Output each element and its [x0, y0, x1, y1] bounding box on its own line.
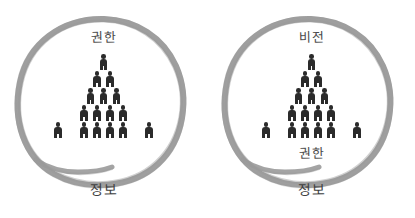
left-panel: 권한	[0, 0, 207, 218]
person-icon	[99, 54, 108, 70]
right-pyramid	[208, 52, 415, 144]
person-icon	[112, 88, 121, 104]
person-icon	[80, 122, 89, 138]
person-icon	[119, 122, 128, 138]
person-icon	[314, 105, 323, 121]
person-icon	[307, 88, 316, 104]
person-icon	[327, 105, 336, 121]
pyramid-row	[208, 86, 415, 104]
person-icon	[301, 71, 310, 87]
pyramid-row	[0, 103, 207, 121]
person-icon	[93, 105, 102, 121]
person-icon	[294, 88, 303, 104]
person-icon	[106, 105, 115, 121]
right-label-mid: 권한	[208, 144, 415, 163]
person-icon-outlier-right	[353, 122, 362, 138]
person-icon-outlier-left	[262, 122, 271, 138]
person-icon	[106, 71, 115, 87]
diagram-canvas: 권한	[0, 0, 415, 218]
person-icon	[119, 105, 128, 121]
person-icon	[301, 122, 310, 138]
person-icon	[288, 105, 297, 121]
left-label-top: 권한	[0, 28, 207, 47]
person-icon	[327, 122, 336, 138]
pyramid-row	[208, 52, 415, 70]
person-icon	[320, 88, 329, 104]
pyramid-row	[208, 103, 415, 121]
pyramid-row	[208, 69, 415, 87]
left-label-bottom: 정보	[0, 181, 207, 200]
pyramid-row	[0, 86, 207, 104]
person-icon	[106, 122, 115, 138]
person-icon-outlier-right	[145, 122, 154, 138]
pyramid-row	[0, 52, 207, 70]
person-icon	[314, 71, 323, 87]
person-icon	[80, 105, 89, 121]
person-icon-outlier-left	[54, 122, 63, 138]
right-label-top: 비전	[208, 28, 415, 47]
pyramid-row	[0, 69, 207, 87]
right-panel: 비전	[208, 0, 415, 218]
person-icon	[86, 88, 95, 104]
person-icon	[314, 122, 323, 138]
pyramid-row	[0, 120, 207, 138]
pyramid-row	[208, 120, 415, 138]
person-icon	[301, 105, 310, 121]
right-label-bottom: 정보	[208, 181, 415, 200]
person-icon	[307, 54, 316, 70]
person-icon	[99, 88, 108, 104]
person-icon	[288, 122, 297, 138]
person-icon	[93, 71, 102, 87]
person-icon	[93, 122, 102, 138]
left-pyramid	[0, 52, 207, 144]
